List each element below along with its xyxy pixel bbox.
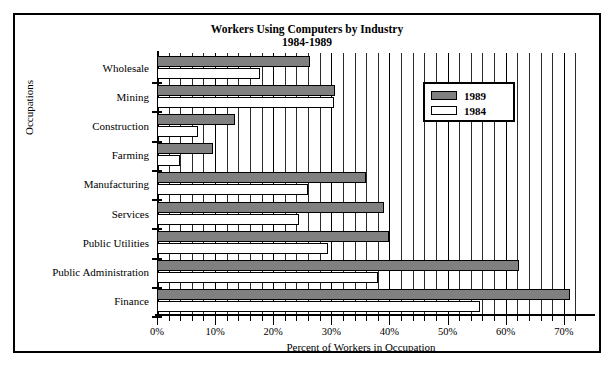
- x-tick-minor: [424, 316, 425, 321]
- x-tick-label: 50%: [438, 326, 457, 337]
- x-tick-major: [564, 316, 565, 325]
- bar-group: Farming: [157, 141, 565, 170]
- bar-1989: [157, 260, 519, 271]
- x-tick-minor: [494, 316, 495, 321]
- bar-1984: [157, 272, 378, 283]
- bar-1984: [157, 68, 260, 79]
- x-tick-major: [448, 316, 449, 325]
- bar-group: Services: [157, 199, 565, 228]
- bar-1984: [157, 301, 480, 312]
- x-tick-minor: [180, 316, 181, 321]
- bar-1984: [157, 243, 328, 254]
- bar-1989: [157, 231, 389, 242]
- x-tick-major: [331, 316, 332, 325]
- bar-1984: [157, 214, 299, 225]
- x-tick-minor: [575, 316, 576, 321]
- bar-1989: [157, 114, 235, 125]
- x-tick-minor: [378, 316, 379, 321]
- category-label: Services: [112, 208, 149, 220]
- chart-title-main: Workers Using Computers by Industry: [211, 23, 403, 35]
- y-axis-label: Occupations: [23, 80, 35, 135]
- x-tick-major: [273, 316, 274, 325]
- category-label: Manufacturing: [84, 178, 149, 190]
- x-tick-minor: [482, 316, 483, 321]
- x-tick-minor: [169, 316, 170, 321]
- x-tick-minor: [192, 316, 193, 321]
- x-tick-minor: [308, 316, 309, 321]
- x-tick-label: 60%: [496, 326, 515, 337]
- x-tick-minor: [285, 316, 286, 321]
- x-tick-minor: [459, 316, 460, 321]
- x-tick-minor: [355, 316, 356, 321]
- x-tick-major: [215, 316, 216, 325]
- legend-label: 1984: [464, 105, 486, 117]
- chart-title: Workers Using Computers by Industry 1984…: [15, 23, 599, 49]
- bar-1984: [157, 97, 334, 108]
- x-tick-minor: [471, 316, 472, 321]
- x-tick-minor: [413, 316, 414, 321]
- chart-legend: 19891984: [423, 82, 515, 122]
- x-tick-major: [506, 316, 507, 325]
- bar-1984: [157, 126, 198, 137]
- x-tick-minor: [343, 316, 344, 321]
- bar-1989: [157, 143, 213, 154]
- bar-1989: [157, 289, 570, 300]
- gridline-minor: [575, 53, 576, 316]
- x-tick-minor: [296, 316, 297, 321]
- x-tick-minor: [401, 316, 402, 321]
- x-tick-minor: [262, 316, 263, 321]
- bar-group: Public Administration: [157, 258, 565, 287]
- category-label: Mining: [117, 91, 149, 103]
- x-axis-label: Percent of Workers in Occupation: [157, 341, 565, 353]
- bar-group: Manufacturing: [157, 170, 565, 199]
- category-label: Public Utilities: [83, 237, 149, 249]
- legend-swatch-1984: [431, 106, 457, 115]
- category-label: Farming: [112, 149, 149, 161]
- bar-1989: [157, 172, 366, 183]
- x-tick-label: 10%: [205, 326, 224, 337]
- bar-1984: [157, 184, 308, 195]
- chart-title-subtitle: 1984-1989: [15, 36, 599, 49]
- x-tick-label: 0%: [150, 326, 164, 337]
- x-tick-minor: [250, 316, 251, 321]
- x-tick-label: 30%: [322, 326, 341, 337]
- category-label: Public Administration: [52, 266, 149, 278]
- category-label: Construction: [92, 120, 149, 132]
- bar-group: Public Utilities: [157, 228, 565, 257]
- x-tick-label: 20%: [264, 326, 283, 337]
- x-tick-minor: [436, 316, 437, 321]
- x-tick-major: [389, 316, 390, 325]
- x-tick-minor: [203, 316, 204, 321]
- legend-swatch-1989: [431, 91, 457, 100]
- category-label: Wholesale: [103, 62, 149, 74]
- bar-1989: [157, 56, 310, 67]
- x-tick-minor: [238, 316, 239, 321]
- x-tick-label: 40%: [380, 326, 399, 337]
- bar-1989: [157, 85, 335, 96]
- bar-group: Finance: [157, 287, 565, 316]
- bar-1984: [157, 155, 180, 166]
- x-tick-label: 70%: [554, 326, 573, 337]
- legend-item: 1984: [431, 103, 507, 118]
- x-tick-minor: [320, 316, 321, 321]
- x-tick-minor: [517, 316, 518, 321]
- category-label: Finance: [114, 295, 149, 307]
- bar-1989: [157, 202, 384, 213]
- x-tick-minor: [227, 316, 228, 321]
- x-tick-minor: [366, 316, 367, 321]
- legend-label: 1989: [464, 90, 486, 102]
- x-tick-minor: [541, 316, 542, 321]
- chart-frame: Workers Using Computers by Industry 1984…: [13, 13, 601, 353]
- x-tick-minor: [552, 316, 553, 321]
- x-tick-major: [157, 316, 158, 325]
- x-tick-minor: [529, 316, 530, 321]
- legend-item: 1989: [431, 88, 507, 103]
- bar-group: Wholesale: [157, 53, 565, 82]
